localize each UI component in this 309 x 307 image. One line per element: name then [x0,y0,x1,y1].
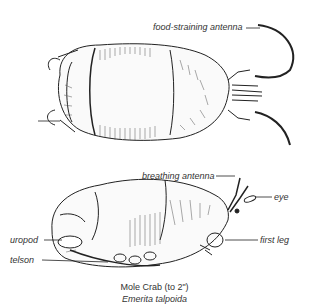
label-eye: eye [274,192,289,202]
caption-scientific-name: Emerita talpoida [0,294,309,304]
label-telson: telson [10,255,34,265]
top-view-crab [38,25,293,145]
label-uropod: uropod [10,235,38,245]
mole-crab-illustration [0,0,309,307]
caption-common-name: Mole Crab (to 2") [0,282,309,292]
label-breathing-antenna: breathing antenna [142,171,215,181]
side-view-crab [42,176,272,267]
label-first-leg: first leg [260,235,289,245]
label-food-straining-antenna: food-straining antenna [153,22,243,32]
